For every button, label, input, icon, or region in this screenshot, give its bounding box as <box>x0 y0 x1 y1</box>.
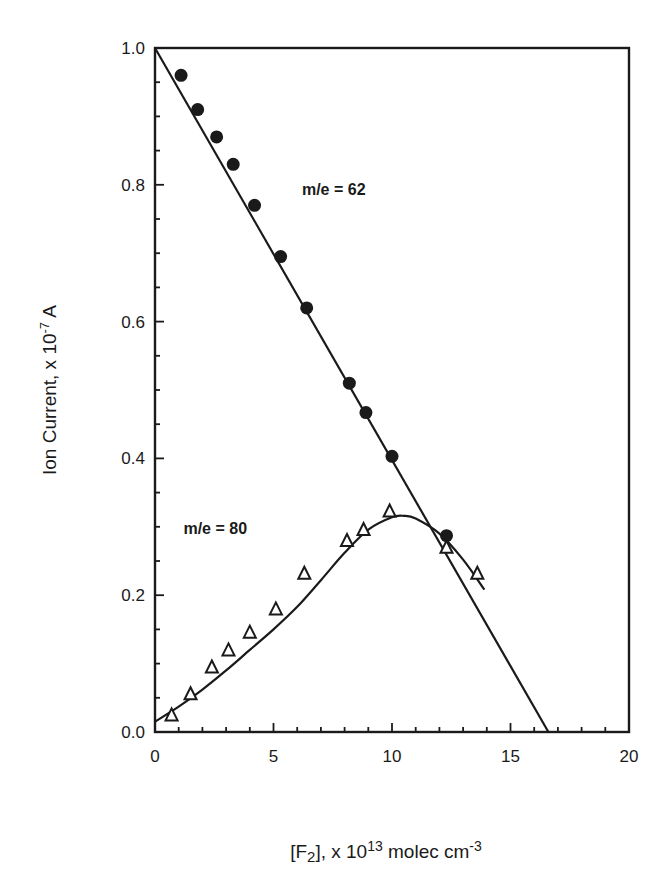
open-triangle-marker <box>298 567 310 579</box>
axis-tick-labels: 051015200.00.20.40.60.81.0 <box>121 39 638 766</box>
axis-ticks <box>155 48 629 732</box>
open-triangle-marker <box>244 626 256 638</box>
open-triangle-marker <box>384 505 396 517</box>
filled-circle-marker <box>210 130 223 143</box>
x-tick-label: 15 <box>501 747 520 766</box>
y-tick-label: 0.8 <box>121 176 145 195</box>
filled-circle-marker <box>191 103 204 116</box>
x-tick-label: 0 <box>150 747 159 766</box>
x-axis-title: [F2], x 1013 molec cm-3 <box>290 838 482 865</box>
data-markers <box>166 69 484 721</box>
fit-lines <box>155 48 548 732</box>
open-triangle-marker <box>222 643 234 655</box>
y-tick-label: 0.4 <box>121 449 145 468</box>
fit-line-m-e-62 <box>155 48 548 732</box>
plot-frame <box>155 48 629 732</box>
filled-circle-marker <box>274 250 287 263</box>
open-triangle-marker <box>341 534 353 546</box>
filled-circle-marker <box>248 199 261 212</box>
ion-current-chart: 051015200.00.20.40.60.81.0 m/e = 62m/e =… <box>0 0 663 885</box>
filled-circle-marker <box>175 69 188 82</box>
x-tick-label: 10 <box>383 747 402 766</box>
x-tick-label: 5 <box>269 747 278 766</box>
x-tick-label: 20 <box>620 747 639 766</box>
y-tick-label: 0.0 <box>121 723 145 742</box>
series-label: m/e = 80 <box>183 520 247 537</box>
filled-circle-marker <box>300 301 313 314</box>
filled-circle-marker <box>359 406 372 419</box>
fit-line-m-e-80 <box>155 516 484 722</box>
series-annotations: m/e = 62m/e = 80 <box>183 181 365 537</box>
y-tick-label: 1.0 <box>121 39 145 58</box>
filled-circle-marker <box>386 450 399 463</box>
y-tick-label: 0.6 <box>121 313 145 332</box>
filled-circle-marker <box>343 377 356 390</box>
series-label: m/e = 62 <box>302 181 366 198</box>
open-triangle-marker <box>206 661 218 673</box>
filled-circle-marker <box>227 158 240 171</box>
y-axis-title: Ion Current, x 10-7 A <box>37 305 60 475</box>
open-triangle-marker <box>185 687 197 699</box>
open-triangle-marker <box>270 602 282 614</box>
plot-border <box>155 48 629 732</box>
y-tick-label: 0.2 <box>121 586 145 605</box>
